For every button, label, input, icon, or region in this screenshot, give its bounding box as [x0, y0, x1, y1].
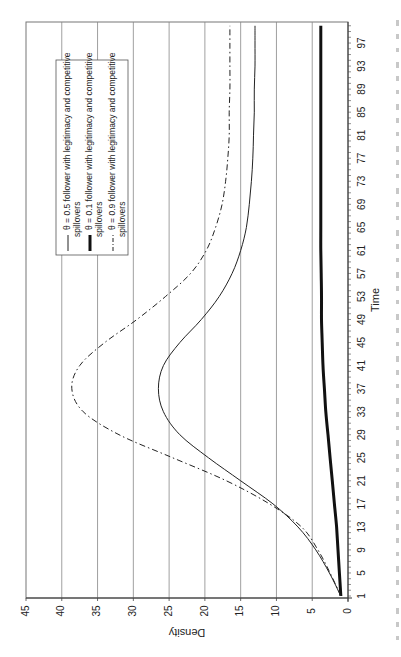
caption-glyph-fragment	[396, 20, 399, 26]
caption-glyph-fragment	[396, 510, 399, 514]
caption-glyph-fragment	[396, 244, 399, 249]
caption-glyph-fragment	[396, 174, 399, 178]
legend-label-cont: spillovers	[117, 202, 127, 237]
caption-glyph-fragment	[396, 104, 399, 110]
time-tick-label: 81	[356, 129, 367, 141]
caption-glyph-fragment	[396, 580, 399, 585]
caption-glyph-fragment	[396, 566, 399, 572]
caption-glyph-fragment	[396, 34, 399, 39]
caption-glyph-fragment	[396, 524, 399, 530]
time-tick-label: 13	[356, 521, 367, 533]
time-tick-label: 61	[356, 244, 367, 256]
time-tick-label: 29	[356, 429, 367, 441]
time-tick-label: 93	[356, 60, 367, 72]
time-tick-label: 25	[356, 452, 367, 464]
caption-glyph-fragment	[396, 328, 399, 333]
caption-glyph-fragment	[396, 188, 399, 194]
caption-glyph-fragment	[396, 496, 399, 501]
caption-glyph-fragment	[396, 230, 399, 236]
time-tick-label: 17	[356, 498, 367, 510]
caption-glyph-fragment	[396, 216, 399, 220]
density-tick-label: 45	[20, 605, 31, 617]
caption-glyph-fragment	[396, 160, 399, 165]
caption-glyph-fragment	[396, 482, 399, 488]
caption-glyph-fragment	[396, 90, 399, 94]
caption-glyph-fragment	[396, 272, 399, 278]
time-tick-label: 45	[356, 337, 367, 349]
time-axis-title: Time	[369, 288, 381, 312]
time-tick-label: 73	[356, 175, 367, 187]
caption-glyph-fragment	[396, 76, 399, 81]
time-tick-label: 89	[356, 83, 367, 95]
time-tick-label: 5	[356, 570, 367, 576]
caption-glyph-fragment	[396, 342, 399, 346]
caption-glyph-fragment	[396, 426, 399, 430]
caption-glyph-fragment	[396, 468, 399, 472]
caption-glyph-fragment	[396, 538, 399, 543]
caption-glyph-fragment	[396, 118, 399, 123]
time-tick-label: 49	[356, 314, 367, 326]
caption-glyph-fragment	[396, 608, 399, 614]
legend-label: θ = 0.5 follower with legitimacy and com…	[62, 52, 72, 230]
density-tick-label: 25	[163, 605, 174, 617]
density-tick-label: 30	[127, 605, 138, 617]
legend-label: θ = 0.9 follower with legitimacy and com…	[107, 52, 117, 230]
caption-glyph-fragment	[396, 146, 399, 152]
caption-glyph-fragment	[396, 454, 399, 459]
time-tick-label: 37	[356, 383, 367, 395]
caption-glyph-fragment	[396, 594, 399, 598]
caption-glyph-fragment	[396, 552, 399, 556]
caption-glyph-fragment	[396, 440, 399, 446]
time-tick-label: 57	[356, 267, 367, 279]
caption-glyph-fragment	[396, 286, 399, 291]
caption-glyph-fragment	[396, 300, 399, 304]
time-tick-label: 53	[356, 290, 367, 302]
caption-glyph-fragment	[396, 636, 399, 640]
caption-glyph-fragment	[396, 258, 399, 262]
caption-glyph-fragment	[396, 384, 399, 388]
time-tick-label: 65	[356, 221, 367, 233]
density-tick-label: 5	[306, 608, 317, 614]
density-tick-label: 15	[234, 605, 245, 617]
time-tick-label: 69	[356, 198, 367, 210]
density-tick-label: 10	[270, 605, 281, 617]
time-tick-label: 85	[356, 106, 367, 118]
caption-glyph-fragment	[396, 48, 399, 52]
rotated-line-chart: θ = 0.5 follower with legitimacy and com…	[0, 0, 401, 657]
legend: θ = 0.5 follower with legitimacy and com…	[56, 52, 128, 255]
density-tick-label: 40	[55, 605, 66, 617]
legend-label-cont: spillovers	[72, 202, 82, 237]
density-tick-label: 20	[199, 605, 210, 617]
caption-glyph-fragment	[396, 412, 399, 417]
caption-glyph-fragment	[396, 370, 399, 375]
time-tick-label: 77	[356, 152, 367, 164]
time-tick-label: 21	[356, 475, 367, 487]
caption-glyph-fragment	[396, 314, 399, 320]
time-tick-label: 33	[356, 406, 367, 418]
caption-glyph-fragment	[396, 622, 399, 627]
density-tick-label: 0	[342, 608, 353, 614]
time-tick-label: 41	[356, 360, 367, 372]
time-tick-label: 9	[356, 547, 367, 553]
caption-glyph-fragment	[396, 202, 399, 207]
density-tick-label: 35	[91, 605, 102, 617]
time-tick-label: 1	[356, 593, 367, 599]
density-axis-title: Density	[168, 627, 205, 639]
caption-glyph-fragment	[396, 356, 399, 362]
legend-label: θ = 0.1 follower with legitimacy and com…	[84, 52, 94, 230]
caption-glyph-fragment	[396, 132, 399, 136]
time-tick-label: 97	[356, 37, 367, 49]
caption-glyph-fragment	[396, 62, 399, 68]
legend-label-cont: spillovers	[94, 202, 104, 237]
figure-caption-fragment	[396, 20, 399, 640]
caption-glyph-fragment	[396, 398, 399, 404]
